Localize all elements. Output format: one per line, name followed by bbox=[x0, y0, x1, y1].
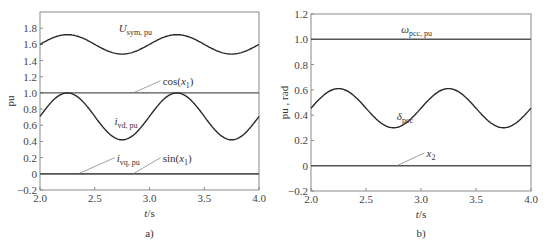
x-tick-label: 2.0 bbox=[33, 192, 47, 204]
y-tick-label: 1.2 bbox=[294, 8, 308, 20]
x-tick-label: 2.5 bbox=[359, 193, 373, 205]
series-label: cos(x1) bbox=[163, 75, 194, 90]
x-tick-label: 3.5 bbox=[197, 192, 211, 204]
plot-frame bbox=[311, 14, 531, 191]
y-axis-label: pu , rad bbox=[278, 85, 290, 119]
x-tick-label: 4.0 bbox=[252, 192, 266, 204]
leader-line bbox=[78, 158, 114, 174]
series-label: Usym, pu bbox=[119, 22, 152, 37]
plot-frame bbox=[40, 12, 259, 190]
series-label: x2 bbox=[426, 147, 436, 162]
series-label: ivd, pu bbox=[114, 115, 137, 130]
x-tick-label: 3.5 bbox=[469, 193, 483, 205]
y-tick-label: 0 bbox=[32, 168, 38, 180]
y-tick-label: 0.8 bbox=[294, 59, 308, 71]
x-axis-label: t/s bbox=[416, 208, 426, 220]
x-tick-label: 2.0 bbox=[304, 193, 318, 205]
y-tick-label: 0.2 bbox=[294, 134, 308, 146]
y-tick-label: 0.6 bbox=[23, 119, 37, 131]
y-tick-label: 1.0 bbox=[294, 33, 308, 45]
x-tick-label: 2.5 bbox=[88, 192, 102, 204]
y-tick-label: 0.6 bbox=[294, 84, 308, 96]
y-tick-label: 0.4 bbox=[294, 109, 308, 121]
chart-panel-b: −0.200.20.40.60.81.01.22.02.53.03.54.0t/… bbox=[278, 8, 538, 240]
y-tick-label: 1.2 bbox=[23, 71, 37, 83]
series-label: sin(x1) bbox=[163, 152, 192, 167]
y-tick-label: 0.4 bbox=[23, 135, 37, 147]
panel-caption: a) bbox=[145, 227, 154, 240]
x-tick-label: 3.0 bbox=[143, 192, 157, 204]
x-tick-label: 3.0 bbox=[414, 193, 428, 205]
y-tick-label: 0 bbox=[303, 160, 309, 172]
y-tick-label: 0.8 bbox=[23, 103, 37, 115]
x-axis-label: t/s bbox=[144, 207, 154, 219]
figure: −0.200.20.40.60.81.01.21.41.61.82.02.53.… bbox=[0, 0, 552, 243]
leader-line bbox=[133, 81, 161, 93]
series-line bbox=[40, 35, 259, 54]
leader-line bbox=[397, 153, 425, 166]
chart-panel-a: −0.200.20.40.60.81.01.21.41.61.82.02.53.… bbox=[4, 12, 266, 240]
y-tick-label: 1.4 bbox=[23, 55, 37, 67]
y-tick-label: 1.0 bbox=[23, 87, 37, 99]
y-axis-label: pu bbox=[4, 95, 16, 107]
y-tick-label: 0.2 bbox=[23, 152, 37, 164]
series-label: δpcc bbox=[397, 110, 414, 125]
series-line bbox=[40, 93, 259, 140]
x-tick-label: 4.0 bbox=[524, 193, 538, 205]
y-tick-label: 1.8 bbox=[23, 22, 37, 34]
series-label: ivq, pu bbox=[117, 152, 140, 167]
panel-caption: b) bbox=[416, 227, 426, 240]
series-label: ωpcc, pu bbox=[401, 23, 432, 38]
series-line bbox=[311, 89, 531, 128]
y-tick-label: 1.6 bbox=[23, 38, 37, 50]
